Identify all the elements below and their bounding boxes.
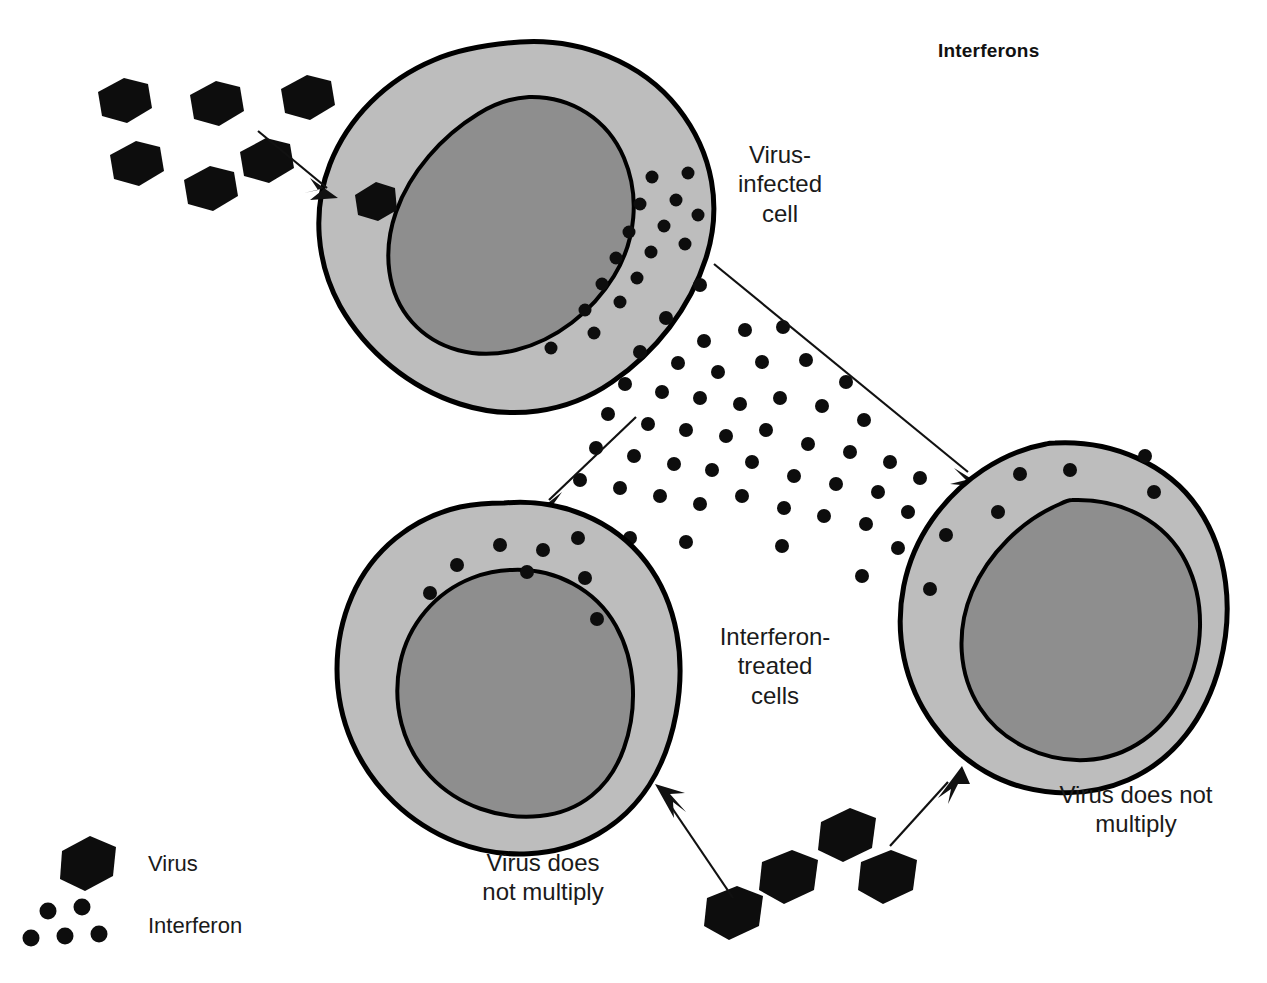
right-cell-outcome-label: Virus does not multiply <box>1031 780 1241 839</box>
left-cell-outcome-label: Virus does not multiply <box>438 848 648 907</box>
interferon-diagram: Interferons Virus- infected cell Interfe… <box>0 0 1267 983</box>
treated-cell-left-nucleus <box>397 570 633 817</box>
virus-hexagon-icon <box>818 808 876 862</box>
virus-hexagon-icon <box>281 75 335 120</box>
virus-hexagon-icon <box>184 166 238 211</box>
virus-hexagon-icon <box>110 141 164 186</box>
virus-hexagon-icon <box>98 78 152 123</box>
infected-cell-label: Virus- infected cell <box>700 140 860 228</box>
virus-hexagon-icon <box>704 886 763 940</box>
page-title: Interferons <box>938 40 1039 62</box>
legend-interferon-dot-icon <box>23 899 108 947</box>
infected-cell <box>319 42 714 413</box>
legend <box>23 836 117 947</box>
legend-interferon-label: Interferon <box>148 913 242 939</box>
virus-hexagon-icon <box>240 138 294 183</box>
arrow-icon <box>890 766 970 846</box>
treated-cell-right <box>900 443 1227 793</box>
virus-hexagon-icon <box>858 850 917 904</box>
virus-hexagon-icon <box>190 81 244 126</box>
legend-virus-label: Virus <box>148 851 198 877</box>
challenge-virus-cluster <box>704 808 917 940</box>
virus-hexagon-icon <box>759 850 818 904</box>
treated-cell-left <box>337 502 680 854</box>
arrow-icon <box>655 784 733 898</box>
free-virus-cluster <box>98 75 335 211</box>
treated-cells-label: Interferon- treated cells <box>690 622 860 710</box>
legend-virus-hexagon-icon <box>60 836 116 891</box>
